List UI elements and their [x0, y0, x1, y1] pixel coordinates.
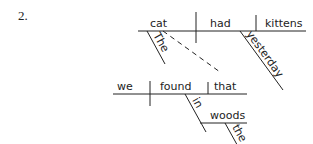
sentence-diagram: 2. cat had kittens The yesterday we foun… — [0, 0, 313, 144]
main-verb: had — [210, 17, 231, 30]
main-verb-adverb: yesterday — [244, 28, 287, 80]
prep-object: woods — [210, 109, 245, 122]
prep-article: the — [229, 122, 249, 144]
main-clause: cat had kittens The yesterday — [138, 12, 306, 90]
relative-connector-line — [163, 31, 220, 72]
relative-verb: found — [160, 80, 192, 93]
relative-subject: we — [117, 80, 133, 93]
preposition: in — [189, 95, 205, 110]
relative-object: that — [214, 80, 237, 93]
main-object: kittens — [265, 17, 303, 30]
main-subject: cat — [150, 17, 168, 30]
item-number: 2. — [18, 8, 28, 23]
relative-clause: we found that in woods the — [113, 80, 250, 144]
